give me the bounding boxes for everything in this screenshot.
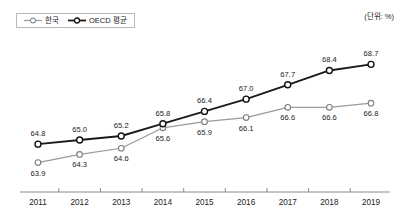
data-point[interactable] [285, 105, 291, 111]
value-label: 66.6 [280, 114, 295, 122]
plot-area [0, 0, 402, 215]
value-label: 64.3 [72, 161, 87, 169]
value-label: 65.8 [155, 110, 170, 118]
data-point[interactable] [202, 108, 208, 114]
value-label: 66.1 [239, 125, 254, 133]
x-tick-label: 2011 [29, 199, 47, 207]
x-tick-label: 2016 [237, 199, 255, 207]
value-label: 65.6 [155, 135, 170, 143]
value-label: 68.7 [364, 50, 379, 58]
value-label: 63.9 [31, 170, 46, 178]
data-point[interactable] [326, 67, 332, 73]
data-point[interactable] [77, 152, 83, 158]
x-tick-label: 2017 [279, 199, 297, 207]
value-label: 67.7 [280, 71, 295, 79]
data-point[interactable] [285, 82, 291, 88]
data-point[interactable] [243, 115, 249, 121]
value-label: 64.8 [31, 130, 46, 138]
x-tick-label: 2019 [362, 199, 380, 207]
data-point[interactable] [77, 137, 83, 143]
data-point[interactable] [35, 141, 41, 147]
x-tick-label: 2012 [71, 199, 89, 207]
value-label: 66.4 [197, 97, 212, 105]
value-label: 65.2 [114, 122, 129, 130]
data-point[interactable] [368, 100, 374, 106]
data-point[interactable] [243, 96, 249, 102]
data-point[interactable] [368, 61, 374, 67]
data-point[interactable] [118, 145, 124, 151]
data-point[interactable] [35, 160, 41, 166]
data-point[interactable] [118, 133, 124, 139]
value-label: 67.0 [239, 85, 254, 93]
line-chart: (단위: %) 한국 OECD 평균 63.964.364.665.665.96… [0, 0, 402, 215]
x-tick-label: 2013 [112, 199, 130, 207]
x-tick-label: 2015 [195, 199, 213, 207]
x-axis [20, 188, 390, 192]
x-tick-label: 2018 [320, 199, 338, 207]
data-point[interactable] [202, 119, 208, 125]
data-point[interactable] [160, 121, 166, 127]
value-label: 66.6 [322, 114, 337, 122]
value-label: 65.0 [72, 126, 87, 134]
value-label: 68.4 [322, 56, 337, 64]
value-label: 65.9 [197, 129, 212, 137]
x-tick-label: 2014 [154, 199, 172, 207]
value-label: 64.6 [114, 155, 129, 163]
value-label: 66.8 [364, 110, 379, 118]
data-point[interactable] [327, 105, 333, 111]
